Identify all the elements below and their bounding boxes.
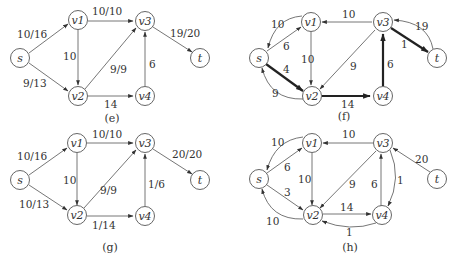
node-t: t [428, 170, 447, 189]
edge-label: 10 [298, 173, 311, 185]
edge-label: 14 [341, 98, 355, 110]
edge-label: 14 [340, 201, 354, 213]
node-v2: v2 [303, 87, 322, 106]
node-v2: v2 [68, 206, 87, 225]
edge-label: 14 [104, 98, 118, 110]
edge-v3-v2 [320, 151, 376, 208]
node-v4: v4 [374, 87, 393, 106]
svg-text:s: s [17, 174, 23, 187]
edge-label: 9 [272, 87, 279, 99]
svg-text:v3: v3 [138, 15, 151, 28]
svg-text:v2: v2 [305, 90, 318, 103]
node-v1: v1 [303, 134, 322, 153]
edge-label: 9/9 [100, 184, 117, 196]
edge-label: 3 [284, 186, 291, 198]
panel-e: 10/16 9/13 10/10 10 9/9 14 6 19/20 s v1 … [11, 5, 210, 125]
edge-label: 10/16 [17, 28, 48, 40]
node-t: t [428, 49, 447, 68]
svg-text:v1: v1 [71, 14, 84, 27]
edge-label: 10/10 [92, 5, 122, 17]
svg-text:v1: v1 [305, 137, 318, 150]
edge-label: 6 [284, 161, 291, 173]
node-v4: v4 [136, 87, 155, 106]
svg-text:s: s [256, 52, 262, 65]
svg-text:t: t [435, 173, 440, 186]
edge-label: 1/6 [148, 178, 165, 190]
svg-text:t: t [198, 174, 203, 187]
svg-text:t: t [435, 52, 440, 65]
edge-label: 10 [63, 174, 76, 186]
svg-text:v2: v2 [71, 90, 84, 103]
edge-label: 10/10 [92, 128, 122, 140]
edge-label: 9/13 [23, 77, 47, 89]
node-s: s [250, 170, 269, 189]
node-v3: v3 [136, 12, 155, 31]
node-s: s [250, 49, 269, 68]
node-v1: v1 [302, 13, 321, 32]
node-v4: v4 [373, 206, 392, 225]
svg-text:v4: v4 [375, 209, 388, 222]
svg-text:v4: v4 [138, 90, 151, 103]
svg-text:v1: v1 [304, 16, 317, 29]
edge-label: 6 [149, 58, 156, 70]
svg-text:s: s [256, 173, 262, 186]
edge-label: 1 [401, 38, 408, 50]
svg-text:v4: v4 [138, 210, 151, 223]
edge-label: 19/20 [170, 27, 200, 39]
panel-caption: (f) [338, 110, 351, 123]
edge-label: 6 [387, 58, 394, 70]
edge-label: 10 [301, 53, 314, 65]
edge-v2-v3 [84, 150, 136, 208]
svg-text:v1: v1 [70, 137, 83, 150]
svg-text:t: t [198, 52, 203, 65]
edge-label: 10 [342, 128, 355, 140]
node-t: t [191, 171, 210, 190]
edge-label: 10 [271, 18, 284, 30]
edge-label: 9 [350, 60, 357, 72]
edge-label: 20/20 [172, 148, 202, 160]
svg-text:v2: v2 [70, 209, 83, 222]
edge-label: 6 [283, 40, 290, 52]
panel-caption: (g) [102, 241, 118, 254]
panel-h: 10 6 3 10 10 10 9 14 1 6 1 20 s v1 v2 v3… [250, 128, 447, 254]
edge-label: 20 [415, 153, 428, 165]
edge-label: 10 [342, 8, 355, 20]
edge-v3-v4 [388, 150, 396, 206]
edge-v3-v2 [320, 30, 375, 89]
panel-caption: (h) [342, 241, 358, 254]
edge-label: 10 [266, 215, 279, 227]
edge-label: 1 [346, 226, 353, 238]
node-s: s [11, 171, 30, 190]
edge-v2-v3 [85, 28, 136, 89]
node-v3: v3 [136, 134, 155, 153]
node-s: s [11, 49, 30, 68]
svg-text:v3: v3 [376, 137, 389, 150]
edge-label: 9/9 [110, 63, 127, 75]
edge-label: 9 [349, 178, 356, 190]
svg-text:v3: v3 [138, 137, 151, 150]
node-v2: v2 [304, 206, 323, 225]
svg-text:v2: v2 [306, 209, 319, 222]
edge-label: 10 [271, 136, 284, 148]
edge-label: 10/13 [19, 198, 49, 210]
node-t: t [191, 49, 210, 68]
panel-caption: (e) [104, 112, 119, 125]
panel-g: 10/16 10/13 10/10 10 9/9 1/14 1/6 20/20 … [11, 128, 210, 254]
node-v3: v3 [374, 134, 393, 153]
edge-label: 1 [397, 174, 404, 186]
panel-f: 10 6 4 9 10 10 9 14 6 1 19 s v1 v2 v3 v4… [250, 8, 447, 123]
edge-label: 6 [371, 178, 378, 190]
edge-label: 10/16 [17, 150, 48, 162]
node-v1: v1 [69, 11, 88, 30]
node-v3: v3 [374, 13, 393, 32]
edge-label: 4 [283, 63, 290, 75]
node-v4: v4 [136, 207, 155, 226]
svg-text:v4: v4 [376, 90, 389, 103]
svg-text:v3: v3 [376, 16, 389, 29]
edge-label: 10 [63, 50, 76, 62]
edge-label: 1/14 [92, 219, 116, 231]
svg-text:s: s [17, 52, 23, 65]
flow-network-figure: 10/16 9/13 10/10 10 9/9 14 6 19/20 s v1 … [0, 0, 458, 264]
node-v2: v2 [69, 87, 88, 106]
node-v1: v1 [68, 134, 87, 153]
